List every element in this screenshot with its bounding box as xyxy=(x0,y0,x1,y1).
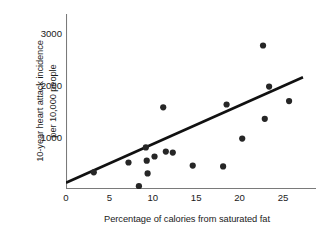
x-tick-label: 10 xyxy=(147,192,158,203)
x-axis-label: Percentage of calories from saturated fa… xyxy=(62,214,312,224)
scatter-plot-figure: 10-year heart attack incidence per 10,00… xyxy=(0,0,321,237)
data-point xyxy=(260,42,266,48)
data-point xyxy=(262,116,268,122)
x-tick-label: 15 xyxy=(191,192,202,203)
data-point xyxy=(136,183,142,189)
plot-svg xyxy=(66,14,316,189)
data-point xyxy=(144,170,150,176)
data-point xyxy=(160,104,166,110)
x-tick-label: 0 xyxy=(63,192,68,203)
x-tick-label: 5 xyxy=(107,192,112,203)
x-axis-tick-labels: 0510152025 xyxy=(0,192,321,208)
y-tick-label: 1000 xyxy=(41,132,62,143)
data-point xyxy=(125,159,131,165)
y-tick-label: 2000 xyxy=(41,80,62,91)
data-point xyxy=(223,101,229,107)
data-point xyxy=(170,150,176,156)
data-point xyxy=(286,98,292,104)
data-point xyxy=(143,144,149,150)
y-tick-label: 3000 xyxy=(41,28,62,39)
data-point xyxy=(163,148,169,154)
data-point xyxy=(266,83,272,89)
data-point xyxy=(190,163,196,169)
data-point xyxy=(239,135,245,141)
plot-area xyxy=(66,14,316,189)
data-point xyxy=(144,158,150,164)
data-point xyxy=(220,163,226,169)
x-tick-label: 20 xyxy=(234,192,245,203)
trendline xyxy=(66,77,303,183)
x-tick-label: 25 xyxy=(278,192,289,203)
data-point xyxy=(151,153,157,159)
data-point xyxy=(91,169,97,175)
